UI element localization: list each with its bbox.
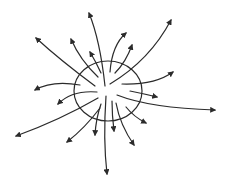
field-line-arrow-up-left-long	[36, 38, 95, 86]
field-line-arrow-up-right	[110, 33, 126, 72]
field-line-arrow-down-left-2	[67, 108, 100, 142]
field-line-arrow-left	[35, 83, 80, 90]
field-line-arrow-right	[122, 72, 173, 84]
field-lines-group	[16, 13, 215, 174]
field-line-arrow-right-long	[117, 95, 215, 110]
field-line-arrow-up-right-2	[115, 45, 132, 73]
field-line-arrow-down	[112, 101, 114, 131]
field-line-arrow-down-long	[105, 96, 107, 174]
field-lines-diagram	[0, 0, 225, 186]
field-line-arrow-down-left-long	[16, 98, 98, 136]
field-line-arrow-up	[89, 13, 105, 86]
field-line-arrow-up-right-long	[110, 20, 171, 84]
field-line-arrow-right-short	[130, 91, 157, 97]
field-line-arrow-down-right	[116, 103, 134, 145]
